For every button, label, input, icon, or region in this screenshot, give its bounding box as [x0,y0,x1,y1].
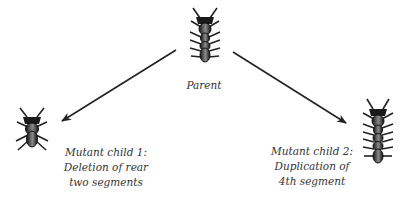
child1-label-line: Mutant child 1: [60,145,152,160]
child1-insect-icon [16,108,48,150]
child2-label-line: Duplication of [266,159,358,174]
child1-label-line: Deletion of rear [60,160,152,175]
child2-label: Mutant child 2: Duplication of 4th segme… [266,144,358,189]
child1-label: Mutant child 1: Deletion of rear two seg… [60,145,152,190]
child2-label-line: Mutant child 2: [266,144,358,159]
parent-label: Parent [174,78,234,93]
mutation-diagram: Parent Mutant child 1: Deletion of rear … [0,0,411,198]
child2-label-line: 4th segment [266,174,358,189]
parent-label-line: Parent [174,78,234,93]
parent-insect-icon [190,8,220,62]
arrow-parent-to-child1 [62,50,176,121]
child2-insect-icon [363,99,393,163]
arrow-parent-to-child2 [233,52,346,123]
child1-label-line: two segments [60,175,152,190]
